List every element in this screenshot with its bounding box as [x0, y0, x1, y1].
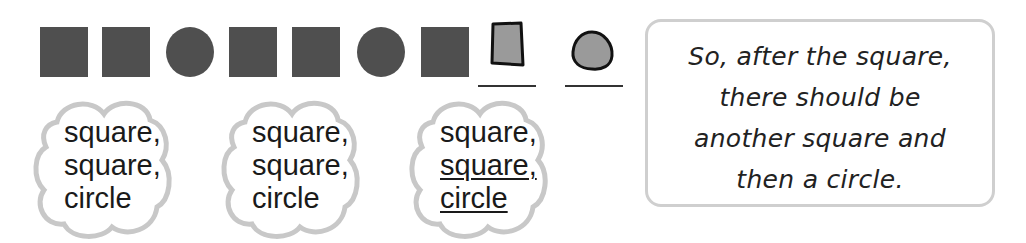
answer-blank-line-1 — [478, 85, 536, 87]
answer-circle-icon — [568, 28, 618, 74]
explanation-line: another square and — [648, 118, 992, 159]
square-shape-2 — [102, 27, 150, 77]
cloud-line: square, — [252, 149, 349, 182]
explanation-line: then a circle. — [648, 159, 992, 200]
cloud-text: square, square, circle — [64, 116, 161, 215]
square-shape-7 — [421, 27, 469, 77]
cloud-text: square, square, circle — [440, 116, 537, 215]
cloud-line: square, — [440, 116, 537, 149]
answer-square-icon — [488, 20, 530, 72]
thought-cloud-2: square, square, circle — [210, 92, 370, 242]
cloud-line-underlined: circle — [440, 182, 508, 214]
cloud-line: square, — [64, 149, 161, 182]
explanation-box: So, after the square, there should be an… — [645, 19, 995, 207]
circle-shape-3 — [166, 27, 214, 77]
cloud-line: square, — [252, 116, 349, 149]
explanation-text: So, after the square, there should be an… — [648, 36, 992, 200]
cloud-line: circle — [64, 182, 161, 215]
answer-blank-line-2 — [565, 85, 623, 87]
explanation-line: there should be — [648, 77, 992, 118]
cloud-line: circle — [252, 182, 349, 215]
cloud-line: square, — [64, 116, 161, 149]
square-shape-1 — [40, 27, 88, 77]
thought-cloud-1: square, square, circle — [22, 92, 182, 242]
cloud-text: square, square, circle — [252, 116, 349, 215]
square-shape-5 — [292, 27, 340, 77]
cloud-line-underlined: square, — [440, 149, 537, 181]
thought-cloud-3: square, square, circle — [398, 92, 558, 242]
square-shape-4 — [229, 27, 277, 77]
explanation-line: So, after the square, — [648, 36, 992, 77]
circle-shape-6 — [357, 27, 405, 77]
